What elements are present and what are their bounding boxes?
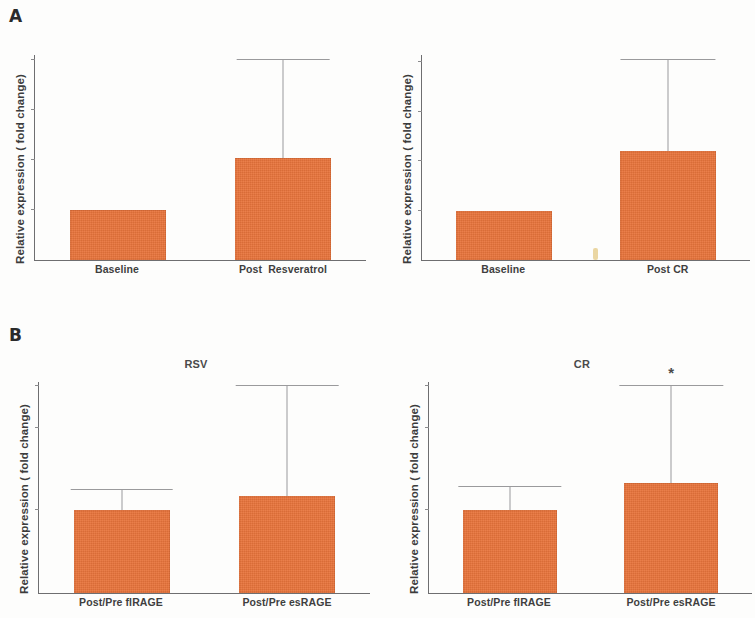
- y-axis-label-text: Relative expression ( fold change): [401, 74, 413, 264]
- chart-a-resveratrol: Relative expression ( fold change) Basel…: [18, 55, 366, 283]
- panel-letter-a: A: [9, 6, 22, 26]
- plot-area: [34, 55, 366, 261]
- error-bar-line: [509, 487, 510, 510]
- bar-slot-flrage: [39, 382, 205, 593]
- y-axis-label-text: Relative expression ( fold change): [18, 404, 30, 594]
- plot-area: [421, 55, 750, 261]
- error-bar-cap: [237, 59, 330, 60]
- x-axis-labels: Post/Pre flRAGE Post/Pre esRAGE: [38, 596, 370, 616]
- error-bar-line: [287, 386, 288, 496]
- significance-asterisk: *: [668, 365, 674, 380]
- chart-title-rsv: RSV: [22, 358, 370, 370]
- bar-group: [35, 55, 366, 260]
- bar-slot-baseline: [35, 55, 201, 260]
- chart-b-rsv: RSV Relative expression ( fold change): [22, 382, 370, 616]
- x-label-flrage: Post/Pre flRAGE: [428, 596, 590, 616]
- y-axis-label: Relative expression ( fold change): [406, 382, 422, 616]
- x-label-esrage: Post/Pre esRAGE: [204, 596, 370, 616]
- bar-slot-esrage: [205, 382, 371, 593]
- bar-group: [39, 382, 370, 593]
- bar-group: [422, 55, 750, 260]
- error-bar-line: [283, 60, 284, 158]
- bar-post-resveratrol[interactable]: [235, 158, 331, 261]
- bar-flrage[interactable]: [74, 510, 170, 593]
- y-axis-label: Relative expression ( fold change): [16, 382, 32, 616]
- y-axis-label: Relative expression ( fold change): [12, 55, 28, 283]
- bar-post-cr[interactable]: [620, 151, 715, 260]
- bar-flrage[interactable]: [463, 510, 557, 593]
- y-axis-label-text: Relative expression ( fold change): [14, 74, 26, 264]
- x-axis-labels: Post/Pre flRAGE Post/Pre esRAGE: [428, 596, 752, 616]
- bar-slot-flrage: [429, 382, 591, 593]
- error-bar-line: [121, 490, 122, 511]
- bar-esrage[interactable]: [239, 496, 335, 593]
- bar-slot-post-resveratrol: [201, 55, 367, 260]
- scan-artifact-speck: [593, 248, 598, 260]
- x-label-flrage: Post/Pre flRAGE: [38, 596, 204, 616]
- error-bar-line: [668, 60, 669, 151]
- chart-title-cr: CR: [412, 358, 752, 370]
- x-axis-labels: Baseline Post CR: [421, 263, 750, 283]
- x-label-esrage: Post/Pre esRAGE: [590, 596, 752, 616]
- y-axis-label-text: Relative expression ( fold change): [408, 404, 420, 594]
- error-bar-cap: [620, 385, 723, 386]
- error-bar-cap: [70, 489, 173, 490]
- error-bar-cap: [620, 59, 715, 60]
- bar-esrage[interactable]: [624, 483, 718, 593]
- bar-slot-post-cr: [586, 55, 750, 260]
- error-bar-cap: [236, 385, 339, 386]
- figure-root: A Relative expression ( fold change): [0, 0, 755, 618]
- x-label-baseline: Baseline: [421, 263, 586, 283]
- error-bar-line: [671, 386, 672, 483]
- x-label-baseline: Baseline: [34, 263, 200, 283]
- chart-b-cr: CR Relative expression ( fold change) *: [412, 382, 752, 616]
- x-axis-labels: Baseline Post Resveratrol: [34, 263, 366, 283]
- x-label-post-cr: Post CR: [586, 263, 751, 283]
- x-label-post-resveratrol: Post Resveratrol: [200, 263, 366, 283]
- panel-letter-b: B: [9, 325, 22, 345]
- plot-area: *: [428, 382, 752, 594]
- bar-baseline[interactable]: [70, 210, 166, 260]
- bar-slot-baseline: [422, 55, 586, 260]
- bar-group: *: [429, 382, 752, 593]
- error-bar-cap: [458, 486, 561, 487]
- y-axis-label: Relative expression ( fold change): [399, 55, 415, 283]
- chart-a-cr: Relative expression ( fold change) Basel…: [405, 55, 750, 283]
- bar-baseline[interactable]: [456, 211, 551, 260]
- plot-area: [38, 382, 370, 594]
- bar-slot-esrage: *: [591, 382, 753, 593]
